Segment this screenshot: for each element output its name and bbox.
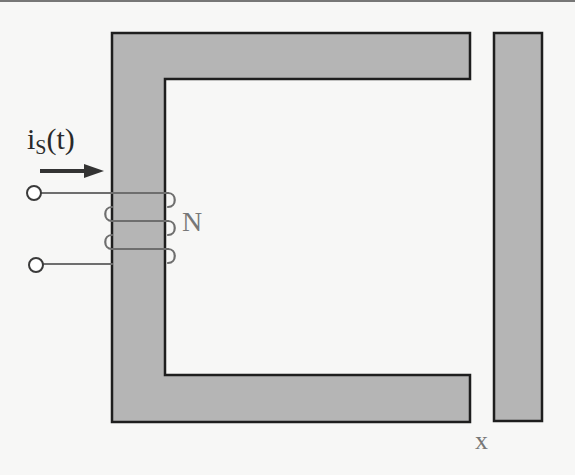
current-arrow <box>40 164 104 178</box>
armature <box>494 33 542 421</box>
current-argument: (t) <box>46 122 74 155</box>
gap-label: x <box>475 428 488 454</box>
c-core <box>112 33 470 422</box>
terminal-top <box>27 186 41 200</box>
turns-label: N <box>182 208 202 236</box>
terminal-bottom <box>29 258 43 272</box>
magnetic-circuit-diagram <box>0 0 575 475</box>
current-subscript: S <box>35 136 46 158</box>
current-label: iS(t) <box>27 124 75 154</box>
